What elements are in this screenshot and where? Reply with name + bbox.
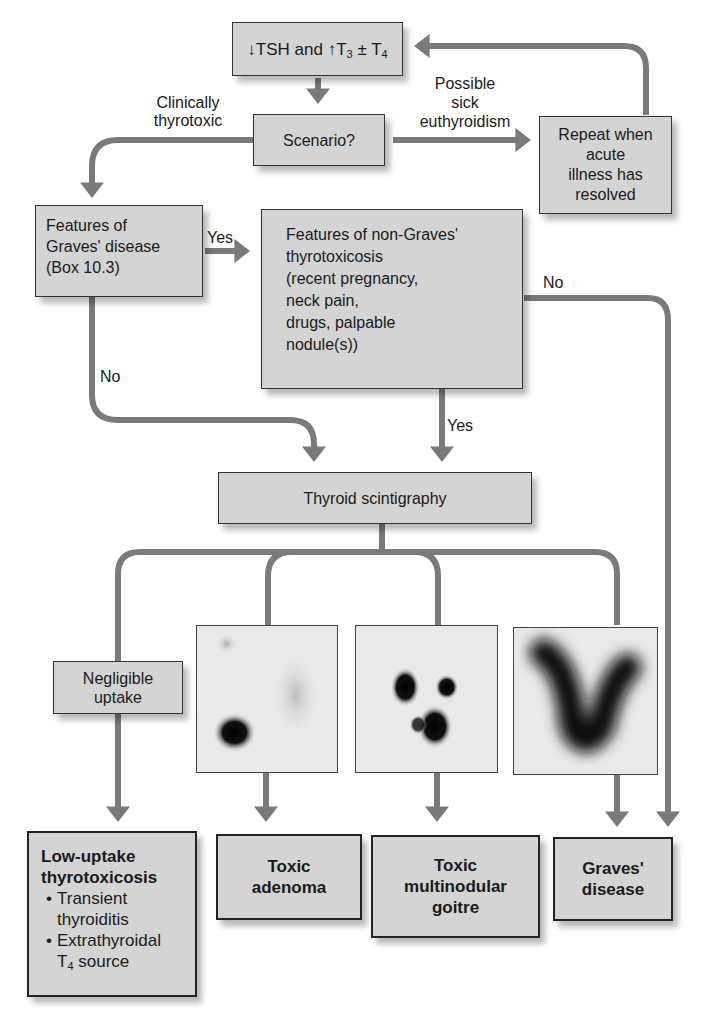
multinodular-goitre-outcome: Toxic multinodular goitre xyxy=(371,835,540,938)
repeat-node: Repeat when acute illness has resolved xyxy=(539,116,672,214)
label-clinically-thyrotoxic: Clinicallythyrotoxic xyxy=(138,94,238,130)
graves-scan xyxy=(513,627,658,775)
scenario-node: Scenario? xyxy=(253,114,385,166)
diffuse-uptake-image xyxy=(514,628,657,774)
start-node: ↓TSH and ↑T3 ± T4 xyxy=(232,22,403,76)
non-graves-features-node: Features of non-Graves' thyrotoxicosis (… xyxy=(261,209,523,389)
multinodular-scan xyxy=(355,625,498,773)
cause-extrathyroidal: ExtrathyroidalT4 source xyxy=(41,930,183,972)
arrow-scenario-to-graves-features xyxy=(92,140,254,192)
label-yes-non-graves: Yes xyxy=(447,417,473,435)
label-sick-euthyroidism: Possiblesickeuthyroidism xyxy=(405,74,525,131)
toxic-adenoma-outcome: Toxic adenoma xyxy=(216,834,362,920)
label-yes-graves: Yes xyxy=(207,229,233,247)
low-uptake-causes: Transient thyroiditis ExtrathyroidalT4 s… xyxy=(41,888,183,972)
multiple-hot-nodules-image xyxy=(356,626,497,772)
toxic-adenoma-scan xyxy=(196,625,338,773)
single-hot-nodule-image xyxy=(197,626,337,772)
graves-disease-outcome: Graves' disease xyxy=(553,837,673,921)
graves-features-node: Features of Graves' disease (Box 10.3) xyxy=(35,205,203,297)
low-uptake-outcome: Low-uptake thyrotoxicosis Transient thyr… xyxy=(27,831,197,997)
label-no-graves: No xyxy=(100,368,120,386)
label-no-non-graves: No xyxy=(543,274,563,292)
scintigraphy-node: Thyroid scintigraphy xyxy=(218,472,532,524)
cause-transient-thyroiditis: Transient thyroiditis xyxy=(41,888,183,930)
scenario-text: Scenario? xyxy=(283,131,355,150)
negligible-uptake-node: Negligible uptake xyxy=(53,661,183,714)
